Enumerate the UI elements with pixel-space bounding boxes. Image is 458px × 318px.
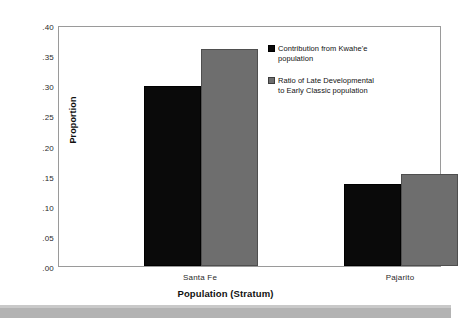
legend-entry: Ratio of Late Developmentalto Early Clas… <box>268 76 398 97</box>
legend: Contribution from Kwahe'epopulationRatio… <box>268 44 398 107</box>
bar-pajarito-series-2 <box>401 174 458 266</box>
y-axis-tick-label: .05 <box>42 233 54 242</box>
legend-entry: Contribution from Kwahe'epopulation <box>268 44 398 65</box>
y-axis-tick-label: .10 <box>42 203 54 212</box>
x-axis-tick-label: Santa Fe <box>183 273 217 282</box>
black-square-icon <box>268 45 275 52</box>
y-axis-tick-label: .35 <box>42 53 54 62</box>
page-bottom-band <box>0 308 451 318</box>
grey-square-icon <box>268 77 275 84</box>
y-axis-tick-label: .25 <box>42 113 54 122</box>
bar-pajarito-series-1 <box>344 184 401 266</box>
bar-santa-fe-series-1 <box>144 86 201 266</box>
bar-santa-fe-series-2 <box>201 49 258 266</box>
y-axis-tick-label: .00 <box>42 264 54 273</box>
y-axis-title: Proportion <box>68 60 78 180</box>
legend-entry-label: Ratio of Late Developmentalto Early Clas… <box>278 76 374 97</box>
y-axis-tick-label: .20 <box>42 143 54 152</box>
y-axis-tick-label: .40 <box>42 23 54 32</box>
legend-entry-label: Contribution from Kwahe'epopulation <box>278 44 367 65</box>
x-axis-title: Population (Stratum) <box>0 288 451 299</box>
y-axis-tick-label: .30 <box>42 83 54 92</box>
x-axis-tick-label: Pajarito <box>386 273 415 282</box>
y-axis-tick-label: .15 <box>42 173 54 182</box>
